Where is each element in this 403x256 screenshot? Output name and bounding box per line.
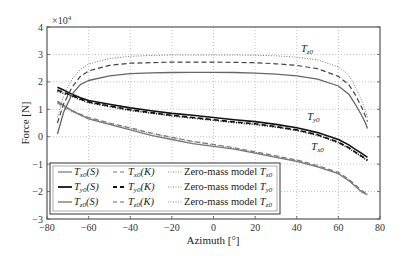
- y-axis-label: Force [N]: [19, 101, 31, 144]
- x-tick-label: 60: [333, 222, 343, 233]
- curve-t-z0-k-: [57, 62, 367, 123]
- x-tick-label: −20: [164, 222, 180, 233]
- y-tick-label: −1: [32, 159, 43, 170]
- legend: Tx0(S)Tx0(K)Zero-mass model Tx0Ty0(S)Ty0…: [50, 163, 280, 214]
- y-multiplier: ×104: [52, 14, 72, 26]
- curve-label: Tx0: [311, 141, 324, 154]
- x-tick-label: 40: [292, 222, 302, 233]
- x-tick-label: 80: [375, 222, 385, 233]
- y-tick-label: 2: [38, 76, 43, 87]
- y-tick-label: −3: [32, 214, 43, 225]
- x-tick-label: −60: [81, 222, 97, 233]
- x-tick-label: −40: [122, 222, 138, 233]
- curve-label: Tz0: [301, 43, 314, 56]
- curve-label: Ty0: [307, 111, 320, 124]
- y-tick-label: 4: [38, 22, 43, 33]
- y-tick-label: 0: [38, 131, 43, 142]
- x-tick-label: 20: [250, 222, 260, 233]
- x-axis-label: Azimuth [°]: [187, 234, 240, 246]
- y-tick-label: −2: [32, 186, 43, 197]
- y-tick-label: 1: [38, 104, 43, 115]
- force-vs-azimuth-chart: −80−60−40−20020406080−3−2−101234 Tz0Ty0T…: [0, 0, 403, 256]
- y-tick-label: 3: [38, 49, 43, 60]
- curve-zero-mass-model-t-z0: [57, 55, 367, 118]
- x-tick-label: 0: [211, 222, 216, 233]
